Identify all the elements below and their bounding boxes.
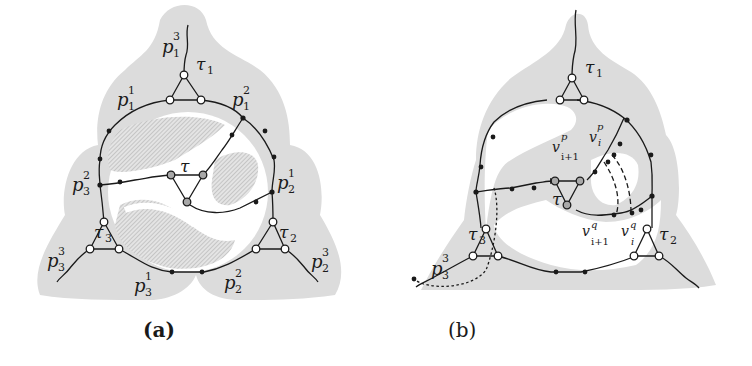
diagram-a: τ 1 τ τ 3 τ 2 p 3 1 p 1 1 p 2 1 p 2 3 p … (0, 0, 376, 366)
svg-text:τ: τ (180, 156, 190, 176)
svg-text:i+1: i+1 (591, 236, 609, 247)
svg-text:τ: τ (659, 224, 669, 244)
svg-text:v: v (621, 223, 629, 239)
svg-text:i+1: i+1 (561, 151, 579, 162)
svg-text:3: 3 (479, 234, 486, 247)
svg-text:3: 3 (105, 232, 112, 245)
caption-b: (b) (448, 318, 476, 342)
svg-text:2: 2 (83, 169, 90, 182)
svg-text:1: 1 (288, 167, 295, 180)
svg-text:3: 3 (83, 185, 90, 198)
svg-text:2: 2 (235, 267, 242, 280)
svg-text:2: 2 (290, 232, 297, 245)
svg-text:3: 3 (58, 245, 65, 258)
svg-text:2: 2 (243, 84, 250, 97)
diagram-b: τ 1 τ τ 3 τ 2 p 3 3 v p i v p i+1 v q i+… (376, 0, 752, 366)
svg-text:v: v (582, 223, 590, 239)
svg-text:i: i (598, 137, 601, 148)
panel-b: τ 1 τ τ 3 τ 2 p 3 3 v p i v p i+1 v q i+… (376, 0, 752, 366)
svg-text:p: p (561, 131, 568, 142)
svg-text:2: 2 (670, 234, 677, 247)
svg-text:v: v (589, 129, 597, 145)
svg-text:i: i (631, 236, 634, 247)
svg-text:2: 2 (288, 183, 295, 196)
svg-text:τ: τ (585, 57, 595, 77)
svg-text:1: 1 (128, 100, 135, 113)
svg-text:1: 1 (128, 84, 135, 97)
svg-text:3: 3 (442, 252, 449, 265)
svg-text:3: 3 (145, 286, 152, 299)
svg-text:τ: τ (94, 222, 104, 242)
svg-text:3: 3 (58, 261, 65, 274)
svg-text:1: 1 (243, 100, 250, 113)
svg-text:1: 1 (145, 270, 152, 283)
panel-a: τ 1 τ τ 3 τ 2 p 3 1 p 1 1 p 2 1 p 2 3 p … (0, 0, 376, 366)
svg-text:τ: τ (552, 189, 562, 209)
svg-text:v: v (552, 139, 560, 155)
svg-text:q: q (630, 219, 636, 230)
svg-text:p: p (597, 121, 604, 132)
svg-text:3: 3 (442, 269, 449, 282)
svg-text:3: 3 (173, 30, 180, 43)
svg-text:1: 1 (596, 67, 603, 80)
svg-text:3: 3 (322, 246, 329, 259)
svg-text:2: 2 (322, 262, 329, 275)
svg-text:τ: τ (468, 224, 478, 244)
svg-text:τ: τ (279, 222, 289, 242)
svg-text:τ: τ (196, 54, 206, 74)
svg-text:2: 2 (235, 283, 242, 296)
white-band (108, 112, 268, 272)
svg-text:1: 1 (173, 47, 180, 60)
svg-text:1: 1 (207, 64, 214, 77)
caption-a: (a) (143, 318, 175, 342)
svg-text:q: q (591, 219, 597, 230)
